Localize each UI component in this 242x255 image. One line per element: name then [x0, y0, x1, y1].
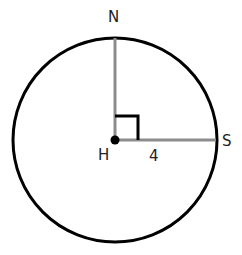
label-h: H	[98, 148, 109, 163]
center-point	[111, 136, 120, 145]
diagram: N H S 4	[0, 0, 242, 255]
right-angle-marker	[115, 116, 138, 140]
label-s: S	[222, 134, 232, 149]
segment-length-label: 4	[149, 149, 159, 164]
label-n: N	[108, 10, 119, 25]
circle-figure	[0, 0, 242, 255]
